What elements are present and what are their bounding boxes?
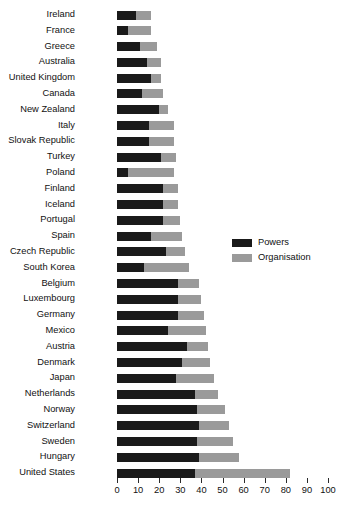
axis-tick bbox=[138, 478, 139, 483]
bar-segment-powers bbox=[117, 153, 161, 162]
chart-row: Japan bbox=[0, 372, 342, 388]
category-label: Iceland bbox=[0, 199, 75, 210]
axis-tick-label: 100 bbox=[320, 485, 336, 496]
bar-segment-organisation bbox=[140, 42, 157, 51]
axis-tick-label: 10 bbox=[133, 485, 143, 496]
axis-tick bbox=[117, 478, 118, 483]
bar-segment-organisation bbox=[166, 247, 185, 256]
chart-row: Luxembourg bbox=[0, 293, 342, 309]
category-label: Spain bbox=[0, 230, 75, 241]
axis-tick bbox=[265, 478, 266, 483]
bar-segment-organisation bbox=[128, 168, 174, 177]
category-label: France bbox=[0, 25, 75, 36]
bar-segment-organisation bbox=[142, 89, 163, 98]
category-label: Poland bbox=[0, 167, 75, 178]
stacked-bar bbox=[117, 105, 168, 114]
stacked-bar bbox=[117, 200, 178, 209]
bar-segment-organisation bbox=[197, 405, 224, 414]
bar-segment-powers bbox=[117, 42, 140, 51]
axis-tick bbox=[201, 478, 202, 483]
stacked-bar bbox=[117, 58, 161, 67]
chart-row: Netherlands bbox=[0, 388, 342, 404]
axis-tick bbox=[286, 478, 287, 483]
chart-row: Mexico bbox=[0, 325, 342, 341]
category-label: Italy bbox=[0, 120, 75, 131]
bar-segment-organisation bbox=[178, 311, 203, 320]
bar-segment-powers bbox=[117, 200, 163, 209]
category-label: Norway bbox=[0, 404, 75, 415]
chart-row: Austria bbox=[0, 341, 342, 357]
bar-segment-organisation bbox=[144, 263, 188, 272]
bar-segment-organisation bbox=[199, 453, 239, 462]
legend-label: Powers bbox=[258, 237, 289, 248]
stacked-bar bbox=[117, 453, 239, 462]
category-label: Finland bbox=[0, 183, 75, 194]
axis-tick bbox=[180, 478, 181, 483]
axis-tick bbox=[223, 478, 224, 483]
chart-row: Italy bbox=[0, 120, 342, 136]
category-label: Ireland bbox=[0, 9, 75, 20]
category-label: Denmark bbox=[0, 357, 75, 368]
bar-segment-organisation bbox=[163, 216, 180, 225]
bar-segment-powers bbox=[117, 58, 147, 67]
bar-segment-organisation bbox=[182, 358, 209, 367]
stacked-bar bbox=[117, 137, 174, 146]
bar-segment-organisation bbox=[178, 295, 201, 304]
stacked-bar bbox=[117, 121, 174, 130]
bar-segment-organisation bbox=[176, 374, 214, 383]
axis-tick-label: 0 bbox=[114, 485, 119, 496]
stacked-bar bbox=[117, 405, 225, 414]
bar-segment-organisation bbox=[197, 437, 233, 446]
bar-segment-powers bbox=[117, 184, 163, 193]
bar-segment-organisation bbox=[199, 421, 229, 430]
bar-segment-organisation bbox=[159, 105, 167, 114]
legend-item: Powers bbox=[232, 236, 311, 249]
category-label: Czech Republic bbox=[0, 246, 75, 257]
stacked-bar bbox=[117, 74, 161, 83]
chart-row: Finland bbox=[0, 183, 342, 199]
stacked-bar bbox=[117, 26, 151, 35]
bar-segment-powers bbox=[117, 437, 197, 446]
category-label: New Zealand bbox=[0, 104, 75, 115]
stacked-bar-chart: IrelandFranceGreeceAustraliaUnited Kingd… bbox=[0, 0, 342, 516]
bar-segment-organisation bbox=[187, 342, 208, 351]
bar-segment-organisation bbox=[163, 200, 178, 209]
stacked-bar bbox=[117, 89, 163, 98]
chart-row: Belgium bbox=[0, 278, 342, 294]
chart-row: New Zealand bbox=[0, 104, 342, 120]
axis-tick bbox=[159, 478, 160, 483]
legend-label: Organisation bbox=[258, 252, 311, 263]
stacked-bar bbox=[117, 153, 176, 162]
stacked-bar bbox=[117, 232, 182, 241]
bar-segment-powers bbox=[117, 74, 151, 83]
bar-segment-powers bbox=[117, 279, 178, 288]
bar-segment-powers bbox=[117, 121, 149, 130]
chart-row: Portugal bbox=[0, 214, 342, 230]
bar-segment-organisation bbox=[151, 232, 183, 241]
bar-segment-powers bbox=[117, 421, 199, 430]
bar-segment-powers bbox=[117, 374, 176, 383]
chart-row: Australia bbox=[0, 56, 342, 72]
chart-row: France bbox=[0, 25, 342, 41]
stacked-bar bbox=[117, 279, 199, 288]
category-label: Portugal bbox=[0, 214, 75, 225]
category-label: United States bbox=[0, 467, 75, 478]
chart-row: Germany bbox=[0, 309, 342, 325]
stacked-bar bbox=[117, 469, 290, 478]
chart-row: Denmark bbox=[0, 357, 342, 373]
category-label: Australia bbox=[0, 56, 75, 67]
stacked-bar bbox=[117, 311, 204, 320]
bar-segment-powers bbox=[117, 326, 168, 335]
axis-tick-label: 50 bbox=[217, 485, 227, 496]
category-label: Belgium bbox=[0, 278, 75, 289]
chart-row: Poland bbox=[0, 167, 342, 183]
category-label: Slovak Republic bbox=[0, 135, 75, 146]
legend-swatch bbox=[232, 254, 252, 262]
bar-segment-powers bbox=[117, 89, 142, 98]
chart-row: United States bbox=[0, 467, 342, 483]
axis-tick bbox=[244, 478, 245, 483]
category-label: Sweden bbox=[0, 436, 75, 447]
chart-row: Greece bbox=[0, 41, 342, 57]
category-label: Mexico bbox=[0, 325, 75, 336]
legend-swatch bbox=[232, 239, 252, 247]
